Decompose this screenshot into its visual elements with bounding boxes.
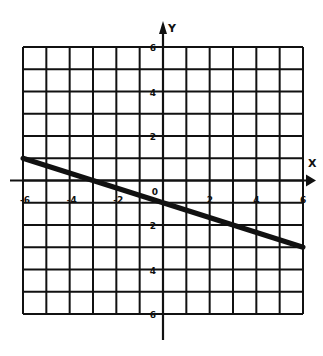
- x-axis-label: X: [308, 157, 317, 170]
- x-tick-label: -4: [67, 195, 77, 205]
- y-tick-label: 4: [150, 266, 156, 276]
- y-axis-label: Y: [167, 22, 177, 35]
- y-axis-arrow-icon: [159, 21, 167, 34]
- x-tick-label: -2: [113, 195, 123, 205]
- x-axis-arrow-icon: [306, 175, 316, 187]
- x-tick-label: 2: [207, 195, 213, 205]
- coordinate-plane-chart: XY -6-4-22466422460: [0, 0, 323, 356]
- y-tick-label: 2: [150, 221, 156, 231]
- y-tick-label: 6: [150, 310, 156, 320]
- x-tick-label: 6: [300, 195, 306, 205]
- y-tick-label: 2: [150, 132, 156, 142]
- y-tick-label: 6: [150, 43, 156, 53]
- x-tick-label: 4: [253, 195, 259, 205]
- x-tick-label: -6: [20, 195, 30, 205]
- y-tick-label: 4: [150, 88, 156, 98]
- origin-label: 0: [152, 187, 158, 197]
